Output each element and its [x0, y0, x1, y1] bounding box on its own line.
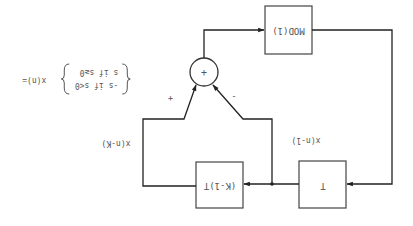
wire-adder-to-mod — [204, 30, 264, 58]
equation-brace — [122, 64, 130, 94]
signal-label-x-n-k: x(n-K) — [102, 139, 131, 148]
equation-brace-right — [61, 64, 69, 94]
plus-input-sign: + — [167, 94, 173, 104]
mod-block: MOD(1) — [265, 6, 312, 54]
delay-t-block: T — [299, 161, 346, 208]
delay-t-label: T — [320, 181, 326, 191]
feedback-block-diagram: + MOD(1) T (K-1)T + - x(n-1) x(n-K) x(n)… — [0, 0, 413, 226]
equation-block: x(n)= -s if s<0 s if s≥0 — [22, 64, 130, 94]
minus-input-sign: - — [231, 92, 236, 102]
junction-dot — [270, 182, 274, 186]
delay-k-label: (K-1)T — [203, 181, 236, 191]
adder-plus-sign: + — [201, 67, 207, 78]
delay-k-block: (K-1)T — [196, 162, 243, 208]
equation-case-1: -s if s<0 — [75, 81, 119, 90]
adder-node: + — [190, 58, 218, 86]
mod-block-label: MOD(1) — [272, 26, 305, 36]
signal-label-x-n-1: x(n-1) — [292, 136, 321, 145]
equation-lhs: x(n)= — [22, 76, 46, 85]
equation-case-2: s if s≥0 — [80, 68, 119, 77]
